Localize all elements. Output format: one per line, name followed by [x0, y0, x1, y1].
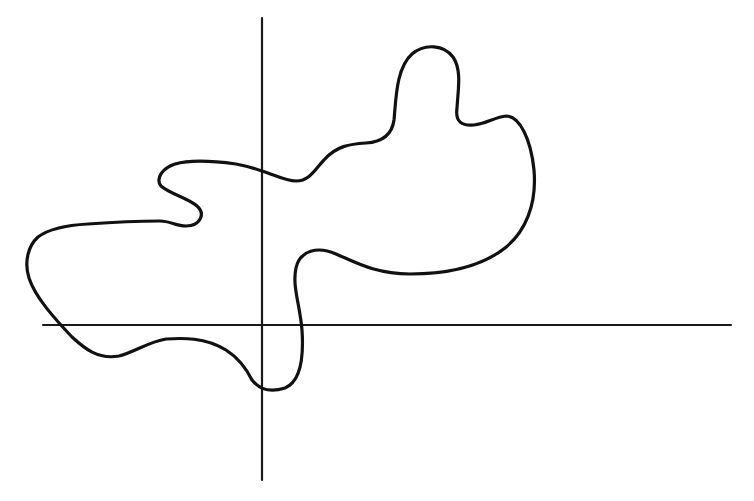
diagram-canvas — [0, 0, 754, 501]
closed-curve — [27, 47, 535, 391]
